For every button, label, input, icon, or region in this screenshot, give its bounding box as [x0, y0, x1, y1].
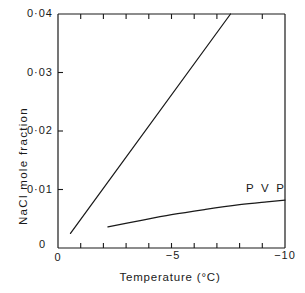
series-line-nacl [70, 14, 230, 233]
x-tick-label-0: 0 [46, 251, 70, 263]
x-tick-label-minus10: −10 [268, 249, 302, 261]
x-tick-label-minus5: −5 [159, 249, 187, 261]
data-series-group [70, 14, 285, 233]
y-tick-label-0p01: 0·01 [8, 183, 53, 195]
y-axis-ticks [58, 73, 63, 190]
series-label-pvp: P V P [246, 182, 286, 194]
y-tick-label-0p03: 0·03 [8, 66, 53, 78]
x-axis-ticks-bottom [81, 243, 263, 248]
axis-frame [58, 14, 285, 248]
y-axis-title: NaCl mole fraction [17, 107, 29, 225]
y-tick-label-0p02: 0·02 [8, 124, 53, 136]
x-axis-title: Temperature (°C) [75, 271, 265, 283]
series-line-pvp [108, 200, 285, 227]
y-tick-label-0: 0 [8, 238, 46, 250]
x-axis-ticks-top [81, 14, 263, 19]
y-tick-label-0p04: 0·04 [8, 7, 53, 19]
chart-figure: 0·04 0·03 0·02 0·01 0 0 −5 −10 NaCl mole… [0, 0, 305, 293]
